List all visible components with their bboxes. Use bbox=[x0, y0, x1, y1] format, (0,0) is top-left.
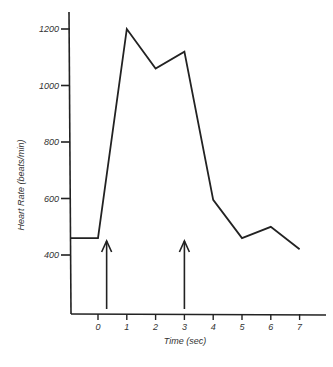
up-arrow-icon bbox=[179, 241, 189, 309]
y-tick-label: 400 bbox=[44, 250, 59, 260]
x-ticks: 01234567 bbox=[95, 314, 303, 332]
up-arrow-icon bbox=[102, 241, 112, 309]
x-tick-label: 3 bbox=[182, 322, 187, 332]
y-tick-label: 1200 bbox=[39, 24, 59, 34]
y-tick-label: 800 bbox=[44, 137, 59, 147]
y-axis bbox=[69, 12, 71, 314]
y-axis-label: Heart Rate (beats/min) bbox=[16, 139, 26, 230]
x-tick-label: 5 bbox=[239, 322, 245, 332]
y-tick-label: 1000 bbox=[39, 81, 59, 91]
x-tick-label: 0 bbox=[95, 322, 100, 332]
x-tick-label: 6 bbox=[268, 322, 273, 332]
x-tick-label: 1 bbox=[124, 322, 129, 332]
heart-rate-chart: 40060080010001200 01234567 Time (sec) He… bbox=[0, 0, 333, 367]
x-axis bbox=[71, 314, 326, 315]
x-tick-label: 7 bbox=[297, 322, 303, 332]
stimulus-arrows bbox=[102, 241, 190, 309]
y-tick-label: 600 bbox=[44, 194, 59, 204]
y-ticks: 40060080010001200 bbox=[39, 24, 70, 260]
x-tick-label: 2 bbox=[152, 322, 158, 332]
heart-rate-line bbox=[71, 29, 300, 249]
x-tick-label: 4 bbox=[211, 322, 216, 332]
x-axis-label: Time (sec) bbox=[164, 336, 206, 346]
